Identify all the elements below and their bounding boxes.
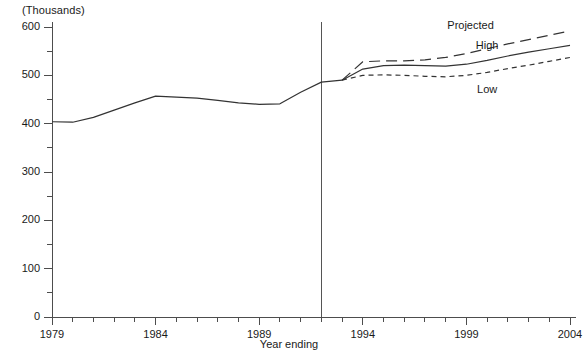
y-tick-label: 500 bbox=[8, 68, 40, 80]
x-tick-label: 1999 bbox=[441, 328, 491, 340]
x-tick-label: 1979 bbox=[27, 328, 77, 340]
y-tick-label: 0 bbox=[8, 310, 40, 322]
series-actual bbox=[52, 80, 342, 122]
y-tick-label: 300 bbox=[8, 165, 40, 177]
y-tick-label: 200 bbox=[8, 213, 40, 225]
x-tick-label: 1984 bbox=[131, 328, 181, 340]
y-tick-label: 400 bbox=[8, 117, 40, 129]
series-projected-high bbox=[342, 31, 570, 80]
annotation-high: High bbox=[476, 39, 499, 51]
y-tick-label: 600 bbox=[8, 20, 40, 32]
series-projected-middle bbox=[342, 45, 570, 80]
y-tick-label: 100 bbox=[8, 262, 40, 274]
x-tick-label: 1989 bbox=[234, 328, 284, 340]
annotation-low: Low bbox=[477, 83, 497, 95]
x-tick-label: 1994 bbox=[338, 328, 388, 340]
annotation-projected: Projected bbox=[447, 19, 493, 31]
x-tick-label: 2004 bbox=[545, 328, 587, 340]
